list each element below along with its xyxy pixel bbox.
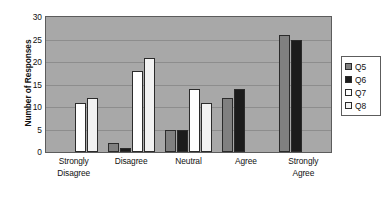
legend: Q5Q6Q7Q8 xyxy=(341,56,381,116)
legend-swatch-icon xyxy=(345,89,352,96)
y-tick-label: 25 xyxy=(16,35,42,45)
bar-q5-agree xyxy=(222,98,233,152)
plot-area xyxy=(45,16,332,153)
x-category-label-line: Agree xyxy=(275,168,332,180)
bar-groups xyxy=(46,17,331,152)
legend-item-q8[interactable]: Q8 xyxy=(345,99,378,112)
bar-group xyxy=(217,17,274,152)
bar-q5-neutral xyxy=(165,130,176,153)
bar-q6-strongly-agree xyxy=(291,40,302,153)
x-category-label: Neutral xyxy=(160,156,217,179)
x-category-label-line: Strongly xyxy=(275,156,332,168)
x-category-label-line: Agree xyxy=(217,156,274,168)
legend-item-label: Q5 xyxy=(355,62,366,72)
bar-q6-disagree xyxy=(120,148,131,153)
x-axis-category-labels: StronglyDisagreeDisagreeNeutralAgreeStro… xyxy=(45,156,332,179)
y-tick-label: 30 xyxy=(16,12,42,22)
bar-group xyxy=(274,17,331,152)
legend-item-q7[interactable]: Q7 xyxy=(345,86,378,99)
y-tick-label: 0 xyxy=(16,147,42,157)
legend-item-label: Q7 xyxy=(355,88,366,98)
x-category-label-line: Disagree xyxy=(102,156,159,168)
legend-item-q5[interactable]: Q5 xyxy=(345,60,378,73)
bar-q5-strongly-agree xyxy=(279,35,290,152)
x-category-label: StronglyAgree xyxy=(275,156,332,179)
bar-group xyxy=(46,17,103,152)
x-category-label: Disagree xyxy=(102,156,159,179)
bar-q6-neutral xyxy=(177,130,188,153)
bar-chart-figure: Number of Responses 051015202530 Strongl… xyxy=(0,0,382,204)
bar-q8-disagree xyxy=(144,58,155,153)
legend-item-q6[interactable]: Q6 xyxy=(345,73,378,86)
x-category-label: StronglyDisagree xyxy=(45,156,102,179)
legend-swatch-icon xyxy=(345,102,352,109)
bar-q5-disagree xyxy=(108,143,119,152)
bar-q7-disagree xyxy=(132,71,143,152)
bar-group xyxy=(160,17,217,152)
y-tick-label: 15 xyxy=(16,80,42,90)
x-category-label-line: Disagree xyxy=(45,168,102,180)
bar-q7-neutral xyxy=(189,89,200,152)
bar-q8-strongly-disagree xyxy=(87,98,98,152)
y-axis-tick-labels: 051015202530 xyxy=(16,16,42,153)
bar-q6-agree xyxy=(234,89,245,152)
y-tick-label: 5 xyxy=(16,125,42,135)
legend-swatch-icon xyxy=(345,76,352,83)
legend-item-label: Q6 xyxy=(355,75,366,85)
legend-item-label: Q8 xyxy=(355,101,366,111)
bar-group xyxy=(103,17,160,152)
legend-swatch-icon xyxy=(345,63,352,70)
x-category-label-line: Neutral xyxy=(160,156,217,168)
x-category-label: Agree xyxy=(217,156,274,179)
y-tick-label: 10 xyxy=(16,102,42,112)
y-tick-label: 20 xyxy=(16,57,42,67)
x-category-label-line: Strongly xyxy=(45,156,102,168)
bar-q8-neutral xyxy=(201,103,212,153)
bar-q7-strongly-disagree xyxy=(75,103,86,153)
